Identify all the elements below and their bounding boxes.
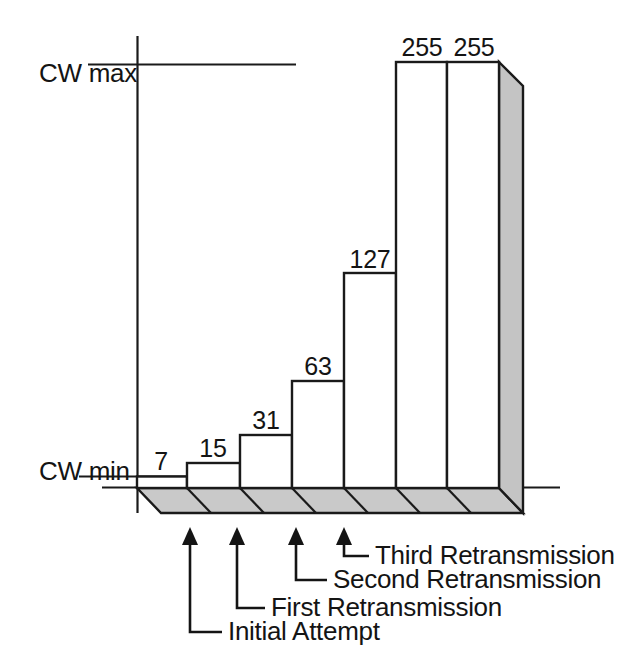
cw-min-axis-label: CW min [39,456,130,486]
bar-1 [187,463,240,488]
bar-2 [240,435,292,488]
callout-label-third-retransmission: Third Retransmission [375,540,615,570]
bar-5 [396,62,447,488]
bar-0 [137,477,187,489]
bar-side-face-3d [499,62,523,513]
bar-value-label-2: 31 [252,406,279,434]
bar-4 [344,273,396,488]
callout-label-first-retransmission: First Retransmission [271,592,502,622]
bar-3 [292,381,344,488]
bar-value-label-6: 255 [453,33,494,61]
floor-slab [137,488,523,513]
bar-value-label-5: 255 [401,33,442,61]
bar-6 [447,62,499,488]
bar-value-label-3: 63 [304,352,331,380]
backoff-contention-window-chart: 7 15 31 63 127 255 255 CW max CW min Ini… [0,0,623,669]
bar-value-label-0: 7 [154,447,168,475]
cw-max-axis-label: CW max [39,58,137,88]
bar-value-label-1: 15 [199,434,226,462]
bar-value-label-4: 127 [349,245,390,273]
